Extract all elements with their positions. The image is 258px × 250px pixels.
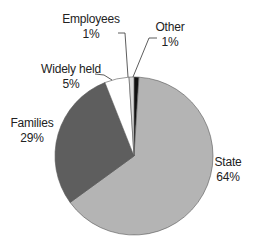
label-other-pct: 1% [153,35,187,50]
label-widely-held-name: Widely held [40,62,102,77]
label-state-name: State [210,155,246,170]
label-other: Other 1% [153,20,187,50]
label-employees-pct: 1% [62,27,120,42]
label-families: Families 29% [10,116,54,146]
label-families-pct: 29% [10,131,54,146]
label-families-name: Families [10,116,54,131]
label-other-name: Other [153,20,187,35]
label-widely-held-pct: 5% [40,77,102,92]
label-widely-held: Widely held 5% [40,62,102,92]
label-employees: Employees 1% [62,12,120,42]
label-state-pct: 64% [210,170,246,185]
label-state: State 64% [210,155,246,185]
label-employees-name: Employees [62,12,120,27]
pie-slices [55,77,213,235]
